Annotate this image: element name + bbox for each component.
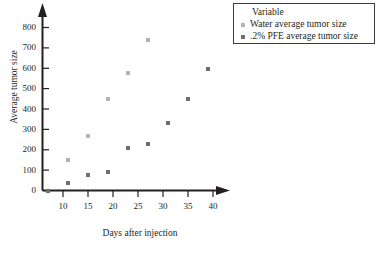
plot-area: 800 700 600 500 400 300 200 100 0 10 15 … (0, 0, 240, 215)
legend-label-water: Water average tumor size (250, 19, 347, 30)
legend-swatch-water-icon (241, 23, 245, 27)
x-tick-label-30: 30 (152, 201, 174, 211)
x-tick-label-35: 35 (177, 201, 199, 211)
legend-item-water[interactable]: Water average tumor size (238, 19, 370, 30)
data-point (146, 142, 150, 146)
data-point (46, 189, 50, 193)
data-point (86, 173, 90, 177)
y-tick-label-100: 100 (12, 165, 36, 175)
y-axis-title: Average tumor size (9, 35, 19, 139)
legend-title: Variable (252, 7, 370, 18)
data-point (106, 170, 110, 174)
x-tick-label-40: 40 (202, 201, 224, 211)
x-tick-label-10: 10 (52, 201, 74, 211)
data-point (166, 121, 170, 125)
data-point (66, 158, 70, 162)
legend-label-pfe: .2% PFE average tumor size (250, 31, 358, 42)
legend-box: Variable Water average tumor size .2% PF… (233, 3, 375, 44)
x-tick-label-20: 20 (102, 201, 124, 211)
y-tick-marks (43, 28, 49, 191)
data-point (86, 134, 90, 138)
x-axis-arrowhead (216, 186, 230, 195)
data-point (186, 97, 190, 101)
y-tick-label-800: 800 (12, 22, 36, 32)
y-axis-arrowhead (38, 3, 47, 17)
data-point (126, 71, 130, 75)
data-point (66, 181, 70, 185)
data-point (206, 67, 210, 71)
y-tick-label-200: 200 (12, 144, 36, 154)
axes-svg (0, 0, 240, 215)
x-axis-title: Days after injection (60, 228, 220, 238)
x-tick-label-15: 15 (77, 201, 99, 211)
legend-swatch-pfe-icon (241, 35, 245, 39)
x-tick-label-25: 25 (127, 201, 149, 211)
x-tick-marks (63, 191, 213, 197)
clipped-bottom-row (0, 246, 378, 254)
y-tick-label-0: 0 (12, 185, 36, 195)
data-point (146, 38, 150, 42)
data-point (126, 146, 130, 150)
data-point (106, 97, 110, 101)
chart-page: 800 700 600 500 400 300 200 100 0 10 15 … (0, 0, 378, 254)
legend-item-pfe[interactable]: .2% PFE average tumor size (238, 31, 370, 42)
